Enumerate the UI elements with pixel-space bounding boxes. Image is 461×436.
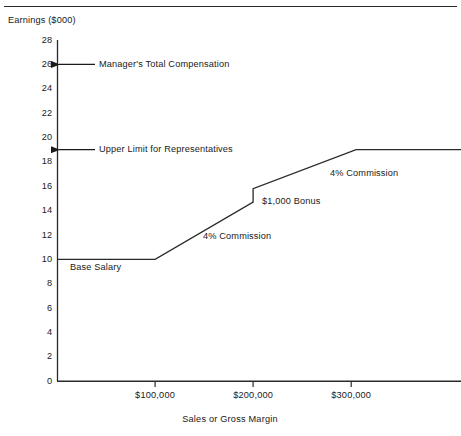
earnings-chart-figure: Earnings ($000) 28 26 24 22 20 18 16 14 … [0,0,461,436]
chart-vector-layer [0,0,461,436]
earnings-data-line [57,150,461,260]
